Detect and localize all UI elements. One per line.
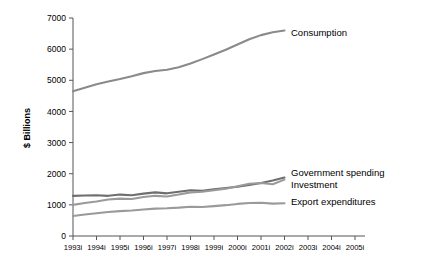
x-tick-label: 2002i (275, 243, 294, 252)
y-axis: 01000200030004000500060007000 (47, 13, 73, 241)
x-tick-label: 2003i (299, 243, 318, 252)
series-line-consumption (73, 30, 285, 91)
y-tick-label: 3000 (47, 138, 66, 148)
series-line-government-spending (73, 177, 285, 195)
series-line-export-expenditures (73, 203, 285, 216)
x-tick-label: 2001i (252, 243, 271, 252)
y-axis-title: $ Billions (22, 108, 32, 148)
y-tick-label: 6000 (47, 44, 66, 54)
y-tick-label: 1000 (47, 200, 66, 210)
x-tick-label: 1996i (134, 243, 153, 252)
x-tick-label: 1999i (205, 243, 224, 252)
series-labels: ConsumptionGovernment spendingInvestment… (291, 27, 384, 207)
y-tick-label: 4000 (47, 107, 66, 117)
series-lines (73, 30, 285, 216)
x-tick-label: 1997i (158, 243, 177, 252)
x-tick-label: 1998i (181, 243, 200, 252)
x-tick-label: 1994i (87, 243, 106, 252)
y-tick-label: 0 (61, 231, 66, 241)
x-tick-label: 2004i (322, 243, 341, 252)
x-tick-label: 2000i (228, 243, 247, 252)
y-tick-label: 7000 (47, 13, 66, 23)
series-label-investment: Investment (291, 179, 338, 190)
y-tick-label: 2000 (47, 169, 66, 179)
x-tick-label: 1993i (64, 243, 83, 252)
chart-canvas: 01000200030004000500060007000 1993i1994i… (0, 0, 421, 261)
y-tick-label: 5000 (47, 75, 66, 85)
line-chart: 01000200030004000500060007000 1993i1994i… (0, 0, 421, 261)
x-axis: 1993i1994i1995i1996i1997i1998i1999i2000i… (64, 236, 365, 252)
series-label-export-expenditures: Export expenditures (291, 196, 376, 207)
x-tick-label: 1995i (111, 243, 130, 252)
x-tick-label: 2005i (346, 243, 365, 252)
series-label-consumption: Consumption (291, 27, 347, 38)
series-label-government-spending: Government spending (291, 167, 384, 178)
